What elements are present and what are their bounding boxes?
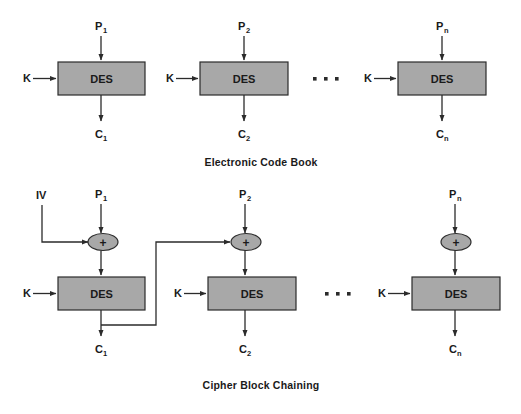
cbc-plaintext-sub-1: 1 bbox=[103, 194, 107, 203]
cbc-ciphertext-label-2: C bbox=[239, 343, 247, 355]
cbc-section: IV P 1 + K DES C 1 bbox=[23, 188, 500, 391]
cbc-des-label-n: DES bbox=[445, 288, 468, 300]
ecb-ciphertext-sub-2: 2 bbox=[246, 134, 250, 143]
cbc-caption: Cipher Block Chaining bbox=[203, 379, 320, 391]
ecb-plaintext-sub-2: 2 bbox=[246, 26, 250, 35]
cbc-xor-glyph-n: + bbox=[452, 236, 459, 250]
ecb-caption: Electronic Code Book bbox=[204, 156, 317, 168]
ecb-plaintext-label-1: P bbox=[95, 20, 102, 32]
ecb-plaintext-sub-1: 1 bbox=[103, 26, 107, 35]
cbc-des-label-2: DES bbox=[241, 288, 264, 300]
ecb-plaintext-sub-n: n bbox=[444, 26, 449, 35]
ecb-ciphertext-sub-1: 1 bbox=[103, 134, 107, 143]
cbc-ciphertext-label-1: C bbox=[95, 343, 103, 355]
ecb-ciphertext-label-n: C bbox=[436, 128, 444, 140]
cbc-des-label-1: DES bbox=[90, 288, 113, 300]
cbc-plaintext-label-n: P bbox=[449, 188, 456, 200]
cbc-block-n: P n + K DES C n bbox=[378, 188, 500, 358]
cbc-plaintext-label-1: P bbox=[95, 188, 102, 200]
cbc-block-1: P 1 + K DES C 1 bbox=[23, 188, 145, 358]
ecb-key-label-1: K bbox=[23, 72, 31, 84]
cbc-ciphertext-label-n: C bbox=[449, 343, 457, 355]
cipher-modes-diagram: P 1 K DES C 1 P 2 K DES C bbox=[0, 0, 521, 414]
cbc-block-2: P 2 + K DES C 2 bbox=[174, 188, 296, 358]
ecb-key-label-n: K bbox=[364, 72, 372, 84]
cbc-xor-glyph-2: + bbox=[242, 236, 249, 250]
ecb-plaintext-label-2: P bbox=[238, 20, 245, 32]
ecb-des-label-1: DES bbox=[90, 73, 113, 85]
cbc-iv-wire bbox=[42, 205, 88, 242]
ecb-block-2: P 2 K DES C 2 bbox=[166, 20, 288, 143]
ecb-ciphertext-label-1: C bbox=[95, 128, 103, 140]
ecb-block-n: P n K DES C n bbox=[364, 20, 486, 143]
ecb-ciphertext-sub-n: n bbox=[444, 134, 449, 143]
cbc-plaintext-sub-2: 2 bbox=[247, 194, 251, 203]
diagram-canvas: P 1 K DES C 1 P 2 K DES C bbox=[0, 0, 521, 414]
cbc-key-label-1: K bbox=[23, 287, 31, 299]
cbc-iv-label: IV bbox=[36, 189, 47, 201]
cbc-plaintext-sub-n: n bbox=[457, 194, 462, 203]
ecb-ciphertext-label-2: C bbox=[238, 128, 246, 140]
ecb-section: P 1 K DES C 1 P 2 K DES C bbox=[23, 20, 486, 168]
cbc-iv-path: IV bbox=[36, 189, 88, 242]
cbc-xor-glyph-1: + bbox=[99, 236, 106, 250]
cbc-ciphertext-sub-2: 2 bbox=[247, 349, 251, 358]
cbc-ciphertext-sub-1: 1 bbox=[103, 349, 107, 358]
cbc-ciphertext-sub-n: n bbox=[457, 349, 462, 358]
cbc-plaintext-label-2: P bbox=[239, 188, 246, 200]
cbc-key-label-n: K bbox=[378, 287, 386, 299]
ecb-plaintext-label-n: P bbox=[436, 20, 443, 32]
ecb-des-label-n: DES bbox=[431, 73, 454, 85]
cbc-key-label-2: K bbox=[174, 287, 182, 299]
ecb-block-1: P 1 K DES C 1 bbox=[23, 20, 145, 143]
cbc-ellipsis bbox=[325, 292, 351, 296]
ecb-key-label-2: K bbox=[166, 72, 174, 84]
ecb-ellipsis bbox=[313, 77, 339, 81]
ecb-des-label-2: DES bbox=[233, 73, 256, 85]
